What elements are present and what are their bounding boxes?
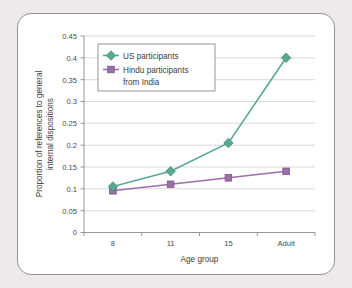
x-tick-labels: 8 11 15 Adult — [111, 239, 296, 248]
y-tick-label: 0.35 — [62, 76, 77, 85]
data-point-marker — [224, 138, 233, 147]
series-line-hindu — [113, 171, 286, 191]
y-tick-label: 0.2 — [66, 141, 77, 150]
data-point-marker — [283, 168, 290, 175]
figure-frame: 0.45 0.4 0.35 0.3 0.25 0.2 0.15 0.1 0.05… — [17, 13, 335, 275]
x-tick-label: 11 — [167, 239, 175, 248]
y-tick-label: 0.05 — [62, 207, 77, 216]
x-tick-label: Adult — [277, 239, 295, 248]
data-point-marker — [166, 167, 175, 176]
y-tick-label: 0.3 — [66, 97, 77, 106]
chart-legend: US participants Hindu participants from … — [98, 44, 215, 91]
y-tick-label: 0 — [73, 228, 77, 237]
x-tick-label: 8 — [111, 239, 115, 248]
y-tick-label: 0.1 — [66, 185, 77, 194]
x-tick-label: 15 — [224, 239, 232, 248]
chart-svg: 0.45 0.4 0.35 0.3 0.25 0.2 0.15 0.1 0.05… — [18, 14, 336, 276]
y-tick-label: 0.45 — [62, 32, 77, 41]
data-point-marker — [167, 181, 174, 188]
y-axis-title-line1: Proportion of references to general — [35, 71, 44, 198]
line-chart: 0.45 0.4 0.35 0.3 0.25 0.2 0.15 0.1 0.05… — [18, 14, 336, 276]
y-tick-label: 0.25 — [62, 119, 77, 128]
data-point-marker — [281, 53, 290, 62]
y-tick-labels: 0.45 0.4 0.35 0.3 0.25 0.2 0.15 0.1 0.05… — [62, 32, 77, 238]
legend-label-us: US participants — [123, 52, 179, 61]
legend-label-hindu-line2: from India — [123, 78, 160, 87]
legend-marker-square-icon — [108, 66, 115, 73]
y-axis-title: Proportion of references to general inte… — [35, 71, 55, 198]
y-axis-title-line2: internal dispositions — [46, 98, 55, 170]
x-axis-title: Age group — [181, 255, 219, 264]
y-tick-label: 0.15 — [62, 163, 77, 172]
data-point-marker — [225, 175, 232, 182]
y-tick-marks — [81, 36, 85, 233]
x-tick-marks — [84, 233, 315, 237]
y-tick-label: 0.4 — [66, 54, 77, 63]
legend-label-hindu-line1: Hindu participants — [123, 66, 189, 75]
